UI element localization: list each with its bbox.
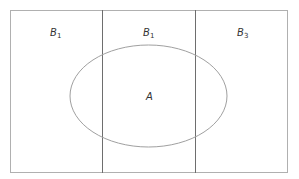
region-label-b1-middle: B1 (143, 27, 154, 40)
ellipse-label-a: A (145, 91, 153, 102)
region-label-b1-left: B1 (50, 27, 61, 40)
region-label-b3-right: B3 (237, 27, 248, 40)
partition-diagram: B1 B1 B3 A (0, 0, 299, 179)
